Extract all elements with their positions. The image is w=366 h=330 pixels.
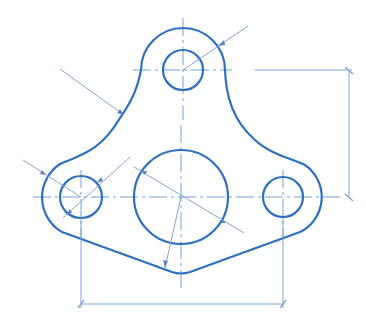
arrow-icon — [218, 40, 225, 46]
left-hole-diameter-leader — [63, 157, 130, 218]
drawing-svg — [0, 0, 366, 330]
arrow-icon — [40, 170, 46, 175]
center-lines — [33, 18, 340, 290]
horizontal-dimension — [78, 300, 286, 308]
technical-drawing — [0, 0, 366, 330]
vertical-dimension — [345, 67, 353, 201]
extension-lines — [81, 70, 352, 308]
arrow-icon — [163, 260, 168, 268]
bottom-radius-leader — [165, 197, 181, 268]
top-radius-leader — [183, 26, 248, 70]
fillet-radius-leader — [60, 69, 124, 115]
